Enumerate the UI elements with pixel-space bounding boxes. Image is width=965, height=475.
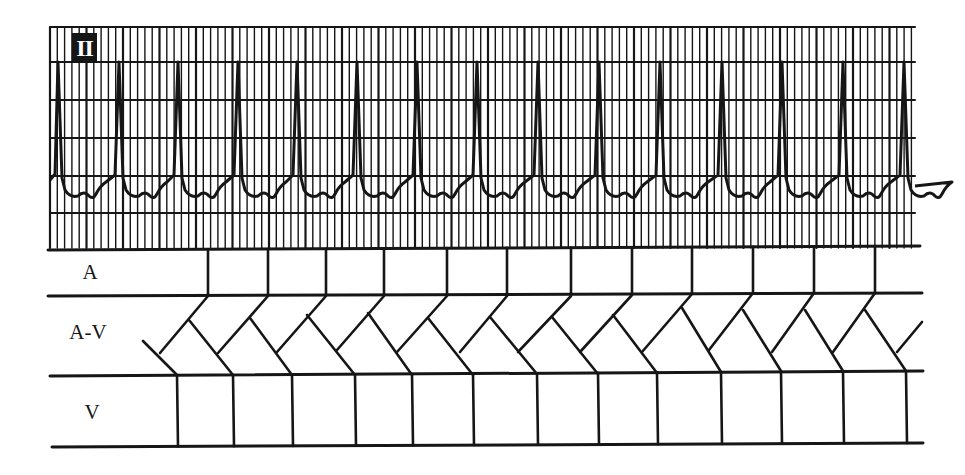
ventricular-activation [537, 373, 538, 445]
ventricular-activation [177, 375, 178, 446]
atrial-activation-lines [208, 246, 875, 295]
anterograde-conduction [490, 317, 537, 374]
retrograde-conduction [518, 296, 571, 352]
anterograde-conduction [805, 310, 843, 371]
ventricular-activation-lines [177, 371, 907, 446]
ventricular-activation [906, 371, 907, 443]
retrograde-conduction [460, 296, 507, 352]
retrograde-conduction [277, 296, 326, 352]
retrograde-conduction [833, 293, 875, 352]
ladder-row-divider [50, 371, 923, 376]
ventricular-activation [473, 374, 474, 445]
ventricular-activation [843, 371, 844, 443]
anterograde-conduction [552, 317, 598, 374]
ventricular-activation [233, 375, 234, 446]
ladder-row-divider [48, 293, 922, 296]
ladder-row-divider [48, 246, 920, 250]
ventricular-activation [412, 374, 413, 445]
lead-label: II [72, 33, 97, 63]
anterograde-conduction [865, 310, 906, 371]
anterograde-conduction [189, 320, 233, 375]
row-label-av-junction: A-V [69, 320, 106, 345]
ecg-ladder-diagram [0, 0, 965, 475]
retrograde-conduction [218, 296, 268, 353]
retrograde-conduction [580, 295, 632, 352]
row-label-atrium: A [82, 260, 97, 285]
anterograde-conduction [307, 315, 355, 375]
ladder-frame [48, 246, 923, 447]
ventricular-activation [355, 374, 356, 445]
anterograde-conduction [250, 318, 292, 375]
anterograde-conduction [743, 310, 781, 371]
ladder-row-divider [52, 443, 923, 447]
anterograde-conduction [143, 341, 177, 375]
retrograde-conduction [160, 296, 208, 353]
row-label-ventricle: V [84, 400, 99, 425]
retrograde-conduction [897, 322, 922, 352]
retrograde-conduction [772, 293, 814, 352]
retrograde-conduction [709, 293, 753, 350]
ventricular-activation [598, 373, 599, 445]
ventricular-activation [781, 372, 782, 444]
ventricular-activation [721, 372, 722, 444]
retrograde-conduction [397, 296, 447, 352]
ventricular-activation [292, 375, 293, 446]
retrograde-conduction [642, 294, 692, 352]
ventricular-activation [657, 373, 658, 445]
retrograde-conduction [337, 296, 384, 350]
av-conduction-lines [143, 293, 922, 375]
